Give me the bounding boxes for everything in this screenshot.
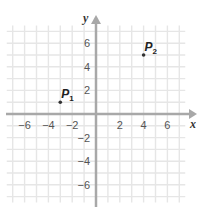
axes: x y	[6, 11, 197, 207]
x-tick-label: −6	[18, 119, 31, 131]
point-label-subscript: 2	[153, 47, 158, 56]
x-tick-label: 6	[164, 119, 170, 131]
y-tick-label: −6	[77, 179, 90, 191]
x-tick-label: 4	[141, 119, 147, 131]
y-tick-label: 2	[84, 84, 90, 96]
point-label-subscript: 1	[69, 94, 74, 103]
x-axis-label: x	[189, 117, 196, 131]
x-tick-label: 2	[117, 119, 123, 131]
x-tick-label: −2	[66, 119, 79, 131]
y-axis-arrow-icon	[91, 15, 101, 24]
y-tick-label: 4	[84, 61, 90, 73]
coordinate-plane: x y −6−4−2246642−2−4−6 P1P2	[0, 0, 206, 213]
x-tick-label: −4	[42, 119, 55, 131]
y-tick-label: −4	[77, 155, 90, 167]
y-axis-label: y	[81, 11, 89, 25]
y-tick-label: −2	[77, 132, 90, 144]
y-tick-label: 6	[84, 37, 90, 49]
